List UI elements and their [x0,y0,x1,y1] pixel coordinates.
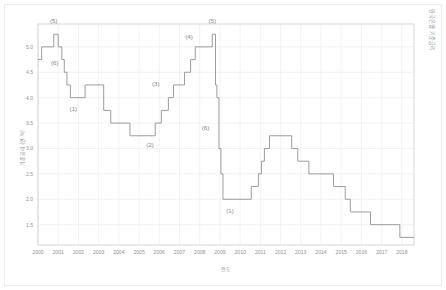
x-tick-label: 2008 [194,249,205,255]
x-tick-label: 2002 [73,249,84,255]
x-tick-label: 2007 [174,249,185,255]
y-tick-label: 3.0 [26,145,33,151]
figure-corner-title: 한국은행 기준금리 [428,9,436,50]
x-tick-label: 2001 [53,249,64,255]
annotation-label: (1) [70,105,78,112]
x-tick-label: 2013 [295,249,306,255]
x-tick-label: 2018 [396,249,407,255]
annotation-label: (4) [185,33,193,40]
annotation-label: (6) [202,124,210,131]
chart-figure: 1.52.02.53.03.54.04.55.0 200020012002200… [0,0,446,290]
annotation-label: (1) [226,207,234,214]
x-tick-label: 2014 [315,249,326,255]
y-tick-label: 2.0 [26,196,33,202]
x-tick-label: 2011 [255,249,266,255]
x-tick-label: 2004 [113,249,124,255]
interest-rate-step-chart: 1.52.02.53.03.54.04.55.0 200020012002200… [0,0,446,290]
y-tick-label: 4.0 [26,95,33,101]
annotation-label: (6) [51,59,59,66]
x-tick-label: 2012 [275,249,286,255]
x-tick-label: 2003 [93,249,104,255]
annotation-label: (2) [146,141,154,148]
x-tick-label: 2017 [376,249,387,255]
y-tick-label: 5.0 [26,44,33,50]
x-tick-label: 2009 [214,249,225,255]
x-tick-label: 2015 [336,249,347,255]
y-tick-label: 2.5 [26,171,33,177]
x-tick-label: 2005 [133,249,144,255]
annotation-label: (5) [208,17,216,24]
x-axis-title: 연도 [221,266,231,272]
y-tick-label: 1.5 [26,222,33,228]
annotation-label: (3) [152,80,160,87]
y-axis-title: 기준금리 (연 %) [19,130,26,166]
chart-background [0,0,446,290]
x-tick-label: 2016 [356,249,367,255]
y-tick-label: 4.5 [26,69,33,75]
x-tick-label: 2010 [234,249,245,255]
y-tick-label: 3.5 [26,120,33,126]
x-tick-label: 2000 [32,249,43,255]
x-tick-label: 2006 [154,249,165,255]
annotation-label: (5) [50,17,58,24]
